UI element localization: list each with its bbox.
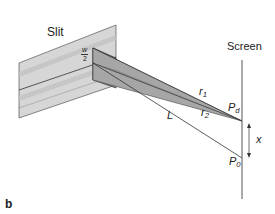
half-width-denominator: 2 [83, 55, 87, 62]
diffraction-beam [93, 48, 242, 158]
P0-label: P0 [229, 156, 241, 168]
half-width-numerator: w [82, 46, 87, 53]
r1-label: r1 [199, 86, 207, 98]
x-displacement-arrow [247, 123, 251, 158]
r2-label: r2 [201, 107, 209, 119]
x-label: x [256, 134, 262, 145]
single-slit-diagram: Slit Screen w 2 r1 r2 L Pd P0 x b [0, 0, 275, 214]
L-label: L [167, 110, 173, 121]
slit-label: Slit [47, 26, 64, 38]
screen-label: Screen [227, 41, 262, 52]
panel-label: b [5, 198, 12, 210]
Pd-label: Pd [228, 102, 240, 114]
